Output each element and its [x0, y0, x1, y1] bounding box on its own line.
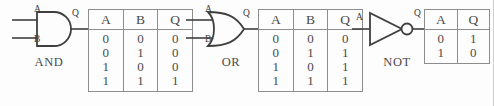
header-cell-b: B [293, 10, 328, 30]
cell-b-0: 0 [294, 32, 328, 46]
cell-b-3: 1 [124, 74, 158, 88]
cell-a-3: 1 [259, 74, 293, 88]
cell-b-1: 1 [124, 46, 158, 60]
cell-a-1: 0 [89, 46, 123, 60]
cell-a-2: 1 [89, 60, 123, 74]
cell-a-3: 1 [89, 74, 123, 88]
column-values-b: 0 1 0 1 [293, 30, 328, 92]
column-values-a: 0 0 1 1 [259, 30, 294, 92]
cell-b-3: 1 [294, 74, 328, 88]
cell-b-0: 0 [124, 32, 158, 46]
cell-a-2: 1 [259, 60, 293, 74]
truth-table-and: A B Q 0 0 1 1 0 1 0 1 0 0 0 1 [88, 9, 193, 92]
truth-table-or: A B Q 0 0 1 1 0 1 0 1 0 1 1 1 [258, 9, 363, 92]
table-body-row: 0 1 1 0 [425, 30, 490, 64]
cell-a-0: 0 [425, 32, 457, 46]
cell-a-1: 1 [425, 46, 457, 60]
header-cell-a: A [259, 10, 294, 30]
column-values-a: 0 0 1 1 [89, 30, 124, 92]
cell-a-0: 0 [259, 32, 293, 46]
table-body-row: 0 0 1 1 0 1 0 1 0 1 1 1 [259, 30, 363, 92]
header-cell-b: B [123, 10, 158, 30]
column-values-b: 0 1 0 1 [123, 30, 158, 92]
column-values-q: 1 0 [457, 30, 490, 64]
cell-b-2: 0 [294, 60, 328, 74]
logic-gate-diagram: A B Q AND A B Q 0 0 1 1 0 [0, 0, 494, 106]
cell-a-1: 0 [259, 46, 293, 60]
table-header-row: A B Q [89, 10, 193, 30]
table-body-row: 0 0 1 1 0 1 0 1 0 0 0 1 [89, 30, 193, 92]
and-gate-icon [4, 6, 94, 56]
column-values-a: 0 1 [425, 30, 458, 64]
cell-b-2: 0 [124, 60, 158, 74]
and-gate-name: AND [4, 55, 94, 70]
table-header-row: A Q [425, 10, 490, 30]
truth-table-not: A Q 0 1 1 0 [424, 9, 490, 64]
header-cell-q: Q [457, 10, 490, 30]
cell-q-1: 0 [458, 46, 490, 60]
cell-b-1: 1 [294, 46, 328, 60]
table-header-row: A B Q [259, 10, 363, 30]
cell-q-0: 1 [458, 32, 490, 46]
header-cell-a: A [89, 10, 124, 30]
header-cell-a: A [425, 10, 458, 30]
cell-a-0: 0 [89, 32, 123, 46]
gate-block-and: A B Q AND [4, 0, 94, 106]
